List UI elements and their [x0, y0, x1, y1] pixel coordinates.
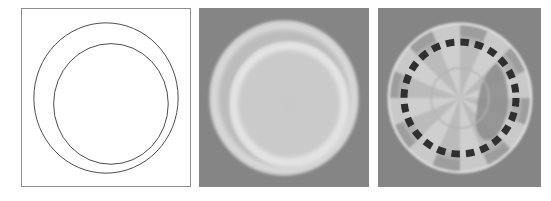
segmentation-image: [378, 8, 541, 187]
panel-segmented: [378, 8, 541, 187]
figure-container: Three-panel annulus comparison a b c: [0, 0, 551, 201]
grayscale-image: [199, 8, 369, 187]
panel-schematic: [21, 8, 191, 187]
schematic-drawing: [22, 9, 190, 186]
panel-grayscale: [199, 8, 369, 187]
schematic-background: [22, 9, 190, 186]
